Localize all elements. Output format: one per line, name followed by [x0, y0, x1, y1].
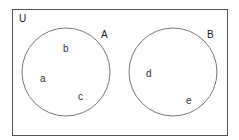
universe-label: U	[19, 13, 26, 24]
set-a-label: A	[101, 29, 108, 40]
set-b-label: B	[207, 29, 214, 40]
element-e: e	[186, 95, 192, 106]
set-a: A b a c	[22, 28, 110, 116]
element-a: a	[40, 73, 46, 84]
set-a-circle	[22, 28, 110, 116]
element-d: d	[146, 68, 152, 79]
set-b: B d e	[129, 28, 217, 116]
element-c: c	[78, 91, 83, 102]
venn-diagram: U A b a c B d e	[0, 0, 239, 140]
element-b: b	[63, 43, 69, 54]
set-b-circle	[129, 28, 217, 116]
